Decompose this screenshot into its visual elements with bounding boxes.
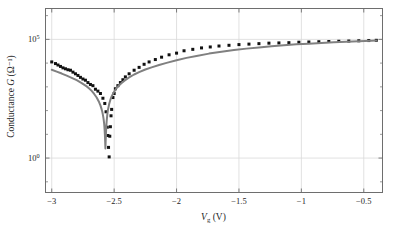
ytick-label-0: 105 <box>28 33 40 44</box>
y-axis-title-unit: (Ω⁻¹) <box>6 55 16 76</box>
y-axis-title: Conductance G (Ω⁻¹) <box>5 55 16 137</box>
data-point <box>267 42 270 45</box>
ytick-label-1: 100 <box>28 152 40 163</box>
data-point <box>99 92 102 95</box>
data-point <box>103 102 106 105</box>
data-point <box>200 46 203 49</box>
y-axis-title-text: Conductance <box>6 88 16 138</box>
data-point <box>110 114 113 117</box>
data-series-layer <box>50 39 378 159</box>
data-point <box>154 58 157 61</box>
data-point <box>277 41 280 44</box>
y-axis-title-symbol: G <box>6 78 16 85</box>
xtick-label-1: −2.5 <box>106 196 121 206</box>
tick-marks <box>46 9 383 193</box>
data-point <box>237 43 240 46</box>
xtick-label-3: −1.5 <box>231 196 246 206</box>
x-axis-title: Vg (V) <box>201 212 226 222</box>
data-point <box>128 72 131 75</box>
data-point <box>191 48 194 51</box>
data-point <box>143 63 146 66</box>
data-point <box>175 52 178 55</box>
xtick-label-2: −2 <box>172 196 181 206</box>
axes-frame <box>46 9 383 193</box>
figure-container: −3−2.5−2−1.5−1−0.5105100 Conductance G (… <box>0 0 395 235</box>
grid-layer <box>46 9 383 193</box>
data-point <box>133 69 136 72</box>
xtick-label-5: −0.5 <box>356 196 371 206</box>
plot-frame <box>46 9 383 193</box>
data-point <box>91 84 94 87</box>
data-point <box>227 44 230 47</box>
data-point <box>108 135 111 138</box>
y-axis-title-wrap: Conductance G (Ω⁻¹) <box>0 0 20 192</box>
data-point <box>287 41 290 44</box>
xtick-label-0: −3 <box>47 196 56 206</box>
conductance-chart: −3−2.5−2−1.5−1−0.5105100 <box>0 0 395 235</box>
xtick-label-4: −1 <box>297 196 306 206</box>
data-point <box>217 45 220 48</box>
data-point <box>101 97 104 100</box>
series-points-measured <box>50 39 378 159</box>
data-point <box>124 75 127 78</box>
x-axis-title-unit: (V) <box>213 212 226 222</box>
data-point <box>138 66 141 69</box>
data-point <box>257 42 260 45</box>
data-point <box>168 53 171 56</box>
data-point <box>183 49 186 52</box>
data-point <box>108 155 111 158</box>
x-axis-title-wrap: Vg (V) <box>45 206 382 224</box>
data-point <box>50 60 53 63</box>
data-point <box>160 56 163 59</box>
data-point <box>107 146 110 149</box>
data-point <box>110 108 113 111</box>
data-point <box>148 60 151 63</box>
data-point <box>247 43 250 46</box>
data-point <box>209 45 212 48</box>
data-point <box>109 125 112 128</box>
tick-labels: −3−2.5−2−1.5−1−0.5105100 <box>28 33 372 206</box>
